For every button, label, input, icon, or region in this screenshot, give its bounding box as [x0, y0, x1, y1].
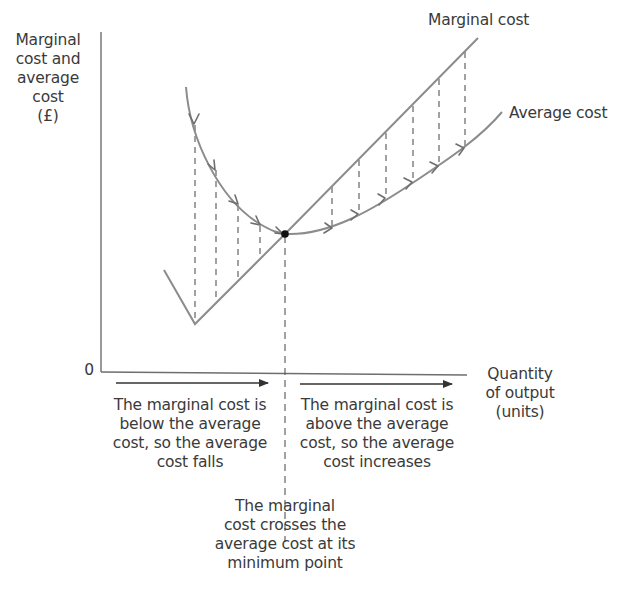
- x-axis: [101, 372, 467, 375]
- note-mc-above-ac: The marginal cost is above the average c…: [291, 396, 463, 472]
- marginal-cost-line: [164, 38, 478, 324]
- x-axis-label: Quantity of output (units): [477, 365, 563, 422]
- origin-label: 0: [83, 361, 95, 380]
- intersection-point: [281, 230, 289, 238]
- average-cost-label: Average cost: [509, 104, 607, 123]
- dashed-gap-lines-right: [332, 52, 465, 228]
- y-axis-label: Marginal cost and average cost (£): [14, 31, 82, 126]
- axes: [101, 32, 467, 375]
- chevron-icon: [351, 210, 358, 220]
- average-cost-direction-arrows: [189, 114, 464, 234]
- note-mc-crosses-ac-minimum: The marginal cost crosses the average co…: [200, 497, 370, 573]
- average-cost-curve: [186, 87, 502, 234]
- note-mc-below-ac: The marginal cost is below the average c…: [104, 396, 276, 472]
- marginal-cost-label: Marginal cost: [428, 11, 529, 30]
